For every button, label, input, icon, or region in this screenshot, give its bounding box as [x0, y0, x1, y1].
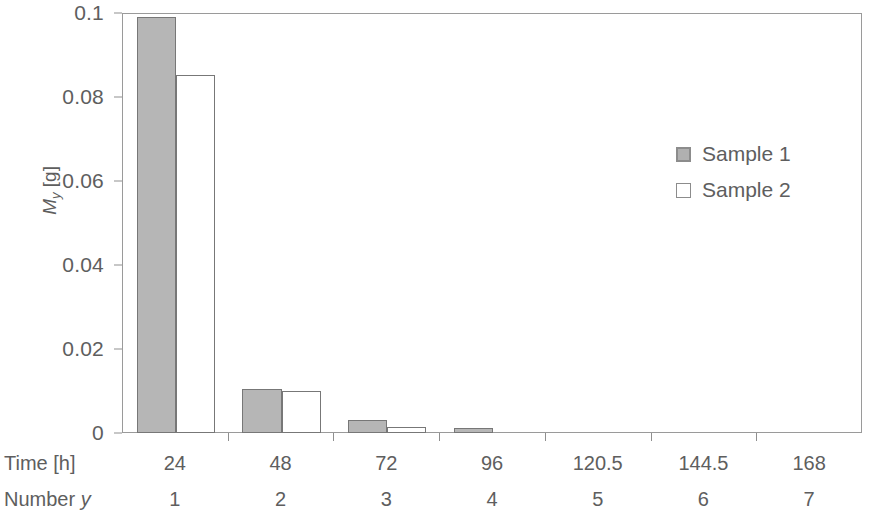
x-axis-tick-mark-2 [333, 433, 334, 441]
y-axis-tick-label-0: 0 [92, 421, 104, 445]
y-axis-tick-mark-4 [114, 97, 122, 98]
bar-group-3 [334, 14, 440, 433]
legend-item-sample-2[interactable]: Sample 2 [676, 172, 791, 208]
x-axis-tick-mark-1 [228, 433, 229, 441]
bars-layer [123, 14, 861, 433]
y-axis-tick-mark-1 [114, 349, 122, 350]
bar-group-4 [440, 14, 546, 433]
y-axis-tick-mark-5 [114, 13, 122, 14]
number-row-text: Number [4, 488, 75, 510]
bar-sample-1-72 [348, 420, 387, 433]
x-axis-number-row-label: Number y [4, 488, 91, 511]
bar-chart-figure: My [g] 00.020.040.060.080.1 Sample 1 Sam… [0, 0, 874, 522]
y-axis-tick-label-4: 0.08 [62, 85, 104, 109]
x-axis-tick-mark-4 [545, 433, 546, 441]
number-row-italic: y [81, 488, 91, 510]
y-axis-tick-label-5: 0.1 [74, 1, 104, 25]
bar-group-5 [546, 14, 652, 433]
x-axis-number-value-3: 4 [486, 488, 497, 511]
x-axis-time-value-4: 120.5 [573, 452, 623, 475]
bar-sample-2-48 [282, 391, 321, 433]
bar-sample-1-24 [137, 17, 176, 433]
legend-label-sample-1: Sample 1 [702, 142, 791, 166]
x-axis-time-value-6: 168 [792, 452, 825, 475]
x-axis-time-row: Time [h] 24487296120.5144.5168 [0, 445, 874, 481]
x-axis-time-value-3: 96 [481, 452, 503, 475]
x-axis-category-table: Time [h] 24487296120.5144.5168 Number y … [0, 445, 874, 517]
bar-group-1 [123, 14, 229, 433]
x-axis-number-value-4: 5 [592, 488, 603, 511]
bar-sample-1-96 [454, 428, 493, 433]
y-axis-tick-mark-3 [114, 181, 122, 182]
x-axis-time-value-0: 24 [164, 452, 186, 475]
legend-swatch-icon-sample-1 [676, 147, 691, 162]
x-axis-number-value-6: 7 [804, 488, 815, 511]
legend-label-sample-2: Sample 2 [702, 178, 791, 202]
legend-item-sample-1[interactable]: Sample 1 [676, 136, 791, 172]
legend: Sample 1 Sample 2 [676, 136, 791, 208]
y-axis-tick-label-3: 0.06 [62, 169, 104, 193]
bar-sample-2-72 [387, 427, 426, 433]
bar-sample-2-24 [176, 75, 215, 433]
x-axis-time-value-5: 144.5 [678, 452, 728, 475]
y-axis-tick-mark-0 [114, 433, 122, 434]
bar-group-7 [757, 14, 863, 433]
x-axis-time-row-label: Time [h] [4, 452, 76, 475]
bar-sample-1-48 [242, 389, 281, 433]
y-axis-tick-mark-2 [114, 265, 122, 266]
x-axis-tick-mark-5 [651, 433, 652, 441]
x-axis-tick-mark-3 [439, 433, 440, 441]
x-axis-tick-mark-6 [756, 433, 757, 441]
x-axis-number-value-2: 3 [381, 488, 392, 511]
bar-group-6 [652, 14, 758, 433]
x-axis-number-row: Number y 1234567 [0, 481, 874, 517]
y-axis: 00.020.040.060.080.1 [0, 13, 122, 433]
x-axis-number-value-5: 6 [698, 488, 709, 511]
legend-swatch-icon-sample-2 [676, 183, 691, 198]
x-axis-time-value-2: 72 [375, 452, 397, 475]
y-axis-tick-label-2: 0.04 [62, 253, 104, 277]
x-axis-number-value-0: 1 [169, 488, 180, 511]
y-axis-tick-label-1: 0.02 [62, 337, 104, 361]
bar-group-2 [229, 14, 335, 433]
x-axis-number-value-1: 2 [275, 488, 286, 511]
x-axis-time-value-1: 48 [269, 452, 291, 475]
